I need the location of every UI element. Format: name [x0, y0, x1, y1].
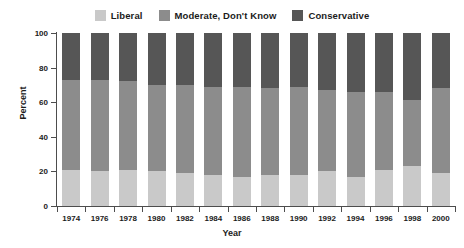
bar-segment[interactable]	[290, 87, 308, 175]
bar-stack[interactable]	[261, 33, 279, 206]
bar-stack[interactable]	[403, 33, 421, 206]
y-axis-tick	[51, 68, 56, 69]
x-axis-tick	[114, 207, 115, 212]
bar-segment[interactable]	[62, 33, 80, 80]
bar-segment[interactable]	[233, 33, 251, 87]
y-axis-tick-label: 20	[0, 167, 48, 176]
bar-segment[interactable]	[233, 177, 251, 206]
legend-swatch-icon	[95, 10, 106, 21]
legend-label: Liberal	[111, 10, 143, 21]
x-axis-tick-label: 2000	[421, 214, 461, 223]
bar-stack[interactable]	[204, 33, 222, 206]
legend-label: Conservative	[308, 10, 369, 21]
bar-segment[interactable]	[261, 88, 279, 175]
bar-segment[interactable]	[347, 92, 365, 177]
bar-segment[interactable]	[403, 33, 421, 100]
bar-segment[interactable]	[119, 33, 137, 81]
plot-area	[57, 33, 455, 206]
bar-stack[interactable]	[148, 33, 166, 206]
legend-item: Conservative	[292, 10, 369, 21]
bar-segment[interactable]	[261, 33, 279, 88]
legend-item: Liberal	[95, 10, 143, 21]
x-axis-tick	[228, 207, 229, 212]
x-axis-tick	[455, 207, 456, 212]
bar-segment[interactable]	[432, 33, 450, 88]
bar-segment[interactable]	[62, 80, 80, 170]
x-axis-tick	[85, 207, 86, 212]
x-axis-tick	[427, 207, 428, 212]
bar-segment[interactable]	[176, 85, 194, 173]
x-axis-tick	[398, 207, 399, 212]
bar-stack[interactable]	[119, 33, 137, 206]
bar-segment[interactable]	[233, 87, 251, 177]
bar-stack[interactable]	[318, 33, 336, 206]
bar-segment[interactable]	[119, 81, 137, 169]
y-axis-title: Percent	[18, 73, 28, 133]
y-axis-tick	[51, 102, 56, 103]
bar-segment[interactable]	[290, 175, 308, 206]
y-axis-tick-label: 100	[0, 29, 48, 38]
x-axis-tick	[256, 207, 257, 212]
bar-segment[interactable]	[347, 33, 365, 92]
bar-segment[interactable]	[318, 90, 336, 171]
x-axis-tick	[199, 207, 200, 212]
x-axis-title: Year	[0, 228, 464, 238]
x-axis-tick	[370, 207, 371, 212]
bar-segment[interactable]	[318, 171, 336, 206]
bar-segment[interactable]	[204, 33, 222, 87]
bar-segment[interactable]	[318, 33, 336, 90]
bar-segment[interactable]	[432, 88, 450, 173]
chart-legend: LiberalModerate, Don't KnowConservative	[0, 6, 464, 24]
y-axis-tick	[51, 171, 56, 172]
bar-segment[interactable]	[375, 92, 393, 170]
bar-segment[interactable]	[403, 100, 421, 166]
y-axis-tick	[51, 137, 56, 138]
bar-stack[interactable]	[432, 33, 450, 206]
bar-segment[interactable]	[176, 33, 194, 85]
stacked-bar-chart-figure: LiberalModerate, Don't KnowConservative …	[0, 0, 464, 248]
bar-segment[interactable]	[261, 175, 279, 206]
bar-segment[interactable]	[91, 33, 109, 80]
bar-segment[interactable]	[148, 85, 166, 172]
bar-segment[interactable]	[204, 175, 222, 206]
bar-stack[interactable]	[176, 33, 194, 206]
legend-swatch-icon	[292, 10, 303, 21]
bar-stack[interactable]	[290, 33, 308, 206]
legend-item: Moderate, Don't Know	[159, 10, 277, 21]
bar-segment[interactable]	[62, 170, 80, 206]
x-axis-tick	[171, 207, 172, 212]
x-axis-tick	[313, 207, 314, 212]
y-axis-tick	[51, 206, 56, 207]
bar-stack[interactable]	[62, 33, 80, 206]
bar-segment[interactable]	[290, 33, 308, 87]
x-axis-tick	[284, 207, 285, 212]
x-axis-tick	[57, 207, 58, 212]
legend-swatch-icon	[159, 10, 170, 21]
y-axis-tick-label: 0	[0, 202, 48, 211]
bar-segment[interactable]	[204, 87, 222, 175]
bar-segment[interactable]	[403, 166, 421, 206]
x-axis-tick	[142, 207, 143, 212]
x-axis-tick	[341, 207, 342, 212]
bar-stack[interactable]	[375, 33, 393, 206]
bar-stack[interactable]	[91, 33, 109, 206]
bar-stack[interactable]	[347, 33, 365, 206]
bar-segment[interactable]	[148, 33, 166, 85]
bar-segment[interactable]	[375, 33, 393, 92]
bar-segment[interactable]	[148, 171, 166, 206]
y-axis-tick-label: 80	[0, 64, 48, 73]
bar-segment[interactable]	[432, 173, 450, 206]
y-axis-tick-label: 40	[0, 133, 48, 142]
bar-segment[interactable]	[119, 170, 137, 206]
bar-segment[interactable]	[375, 170, 393, 206]
bar-segment[interactable]	[347, 177, 365, 206]
bar-stack[interactable]	[233, 33, 251, 206]
bar-segment[interactable]	[176, 173, 194, 206]
legend-label: Moderate, Don't Know	[175, 10, 277, 21]
bar-segment[interactable]	[91, 171, 109, 206]
bar-segment[interactable]	[91, 80, 109, 172]
y-axis-tick	[51, 33, 56, 34]
